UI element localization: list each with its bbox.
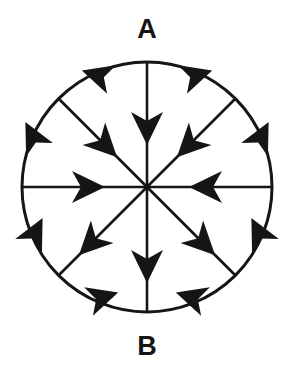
arrowhead-arc-right-upper: [241, 115, 282, 156]
pole-label-b: B: [127, 333, 167, 360]
flow-diagram: [0, 0, 294, 372]
radius-down-left-line: [59, 187, 147, 275]
figure-root: A B: [0, 0, 294, 372]
arrowhead-arc-left-upper: [12, 115, 53, 156]
radius-down-right-line: [147, 187, 235, 275]
arrowhead-arc-top-right: [178, 56, 216, 94]
arrowhead-arc-top-left: [77, 56, 115, 94]
pole-label-a: A: [127, 16, 167, 43]
